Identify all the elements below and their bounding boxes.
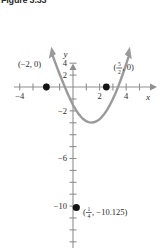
y-tick-label--6: −6 (58, 153, 67, 163)
y-axis-label: y (63, 49, 68, 59)
plot-points (43, 84, 110, 211)
point-label-vertex-rest: , −10.125) (92, 207, 127, 217)
y-tick-label-4: 4 (63, 58, 68, 68)
svg-text:(: ( (83, 207, 86, 217)
point-label-x-intercept-left: (−2, 0) (18, 59, 41, 69)
svg-text:(: ( (114, 62, 117, 72)
x-axis-label: x (145, 92, 150, 102)
y-tick-label--10: −10 (54, 201, 67, 211)
point-label-right-rest: , 0) (123, 62, 135, 72)
point-label-vertex: ( 1 4 , −10.125) (83, 206, 128, 219)
x-tick-label-4: 4 (124, 91, 129, 101)
x-tick-label--4: −4 (15, 91, 25, 101)
point-x-intercept-right (103, 84, 110, 91)
frac-numerator-vertex: 1 (87, 206, 90, 212)
point-vertex (73, 204, 80, 211)
point-x-intercept-left (43, 84, 50, 91)
y-axis (70, 64, 77, 249)
frac-numerator-right: 5 (118, 61, 121, 67)
y-tick-label--2: −2 (58, 106, 67, 116)
frac-denominator-vertex: 4 (87, 213, 90, 219)
x-tick-label-2: 2 (97, 91, 101, 101)
frac-denominator-right: 2 (118, 69, 121, 75)
y-tick-label-2: 2 (63, 70, 67, 80)
figure-container: Figure 3.33 (0, 0, 162, 252)
x-axis (14, 83, 157, 90)
parabola-chart: −4 2 4 4 2 −2 −6 −10 x y (−2, 0) ( 5 2 ,… (0, 0, 162, 252)
